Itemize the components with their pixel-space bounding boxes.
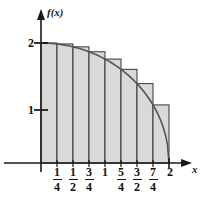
fraction-denominator: 4: [149, 181, 158, 193]
x-tick-label-two: 2: [158, 166, 182, 178]
whole-number-one: 1: [102, 166, 108, 178]
fraction-numerator: 7: [149, 166, 158, 178]
fraction-denominator: 4: [85, 181, 94, 193]
riemann-sum-figure: f(x) x 2 1 1 4 1 2 3 4: [0, 0, 206, 212]
fraction-seven-quarters: 7 4: [149, 166, 158, 193]
x-tick-label-group: 1 4 1 2 3 4 1 5: [0, 0, 206, 212]
whole-number-two: 2: [167, 166, 173, 178]
